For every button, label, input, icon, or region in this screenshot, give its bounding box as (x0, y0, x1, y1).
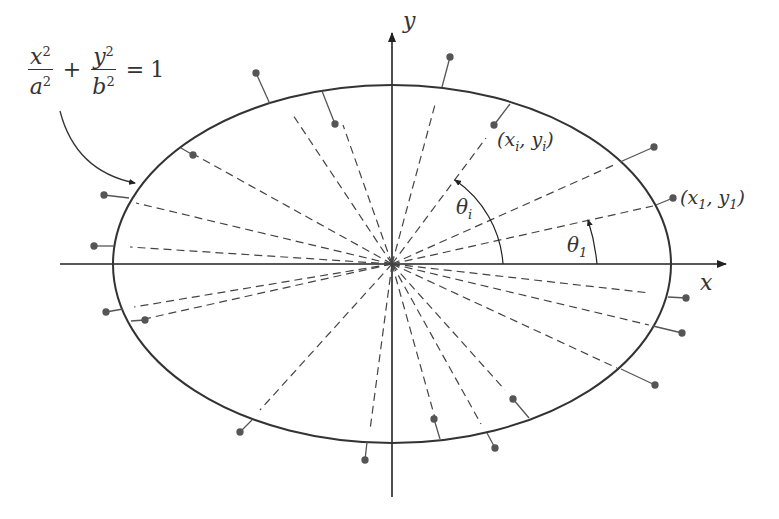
plus-sign: + (63, 57, 81, 82)
x-fraction: x2 a2 (28, 40, 53, 100)
equation-rhs: 1 (150, 57, 164, 82)
theta-1-label: θ1 (567, 233, 587, 260)
equals-sign: = (126, 57, 144, 82)
x-axis-label: x (700, 270, 712, 295)
point-1-label: (x1, y1) (680, 186, 745, 212)
y-fraction: y2 b2 (91, 40, 116, 100)
point-i-label: (xi, yi) (497, 128, 554, 154)
ellipse-equation: x2 a2 + y2 b2 = 1 (24, 40, 164, 100)
y-axis-label: y (403, 8, 415, 33)
theta-i-label: θi (456, 195, 472, 222)
theta-i-arc (455, 180, 503, 264)
theta-1-arc (588, 220, 597, 264)
equation-pointer-arrow (60, 111, 135, 183)
